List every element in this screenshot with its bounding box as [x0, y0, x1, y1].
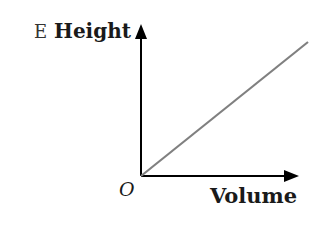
y-axis-arrow-icon: [135, 24, 147, 39]
option-letter: E: [34, 21, 47, 42]
data-line: [141, 42, 308, 176]
x-axis-label: Volume: [210, 183, 297, 208]
x-axis-arrow-icon: [284, 170, 299, 182]
y-axis-label: Height: [54, 19, 131, 43]
origin-label: O: [119, 178, 135, 200]
